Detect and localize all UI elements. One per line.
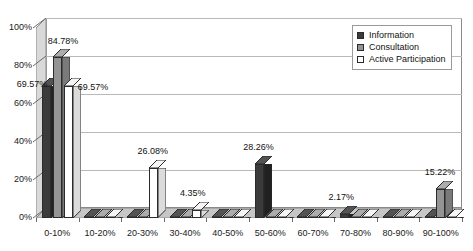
bar-side-face	[73, 86, 81, 218]
x-axis-tick-label: 90-100%	[413, 228, 469, 238]
bar	[436, 189, 445, 218]
bar-front-face	[192, 210, 201, 218]
y-axis-tick-label: 0%	[0, 213, 32, 222]
x-axis-tick	[36, 218, 37, 222]
bar-data-label: 69.57%	[78, 83, 109, 92]
bar-data-label: 4.35%	[180, 189, 206, 198]
bar-front-face	[42, 86, 51, 218]
legend-label: Information	[369, 31, 414, 40]
y-axis-tick	[33, 56, 47, 68]
x-axis-tick	[79, 218, 80, 222]
legend-item[interactable]: Information	[357, 30, 446, 41]
bar-data-label: 84.78%	[48, 37, 79, 46]
bar	[383, 217, 392, 219]
bar	[84, 217, 93, 219]
bar	[42, 86, 51, 218]
bar-data-label: 15.22%	[425, 168, 456, 177]
bar-front-face	[255, 164, 264, 218]
bar	[170, 217, 179, 219]
bar-top-face	[106, 209, 123, 217]
bar-top-face	[149, 160, 166, 168]
bar-top-face	[436, 181, 453, 189]
bar	[106, 217, 115, 219]
legend-swatch-icon	[357, 32, 364, 39]
bar-front-face	[436, 189, 445, 218]
y-axis-tick-label: 100%	[0, 23, 32, 32]
bar-top-face	[405, 209, 422, 217]
y-axis-tick	[33, 18, 47, 30]
bar	[277, 217, 286, 219]
bar	[362, 217, 371, 219]
legend-item[interactable]: Active Participation	[357, 54, 446, 65]
x-axis-tick	[419, 218, 420, 222]
bar	[405, 217, 414, 219]
bar	[64, 86, 73, 218]
legend-label: Active Participation	[369, 55, 446, 64]
gridline	[46, 18, 462, 19]
x-axis-tick	[334, 218, 335, 222]
bar	[394, 217, 403, 219]
bar-top-face	[447, 209, 464, 217]
bar	[181, 217, 190, 219]
bar	[95, 217, 104, 219]
x-axis-tick	[249, 218, 250, 222]
x-axis-tick	[164, 218, 165, 222]
bar-front-face	[53, 57, 62, 218]
bar	[319, 217, 328, 219]
bar-side-face	[201, 210, 209, 218]
legend-swatch-icon	[357, 44, 364, 51]
bar	[223, 217, 232, 219]
bar-side-face	[158, 168, 166, 218]
bar-top-face	[53, 49, 70, 57]
y-axis-tick-label: 20%	[0, 175, 32, 184]
bar	[138, 217, 147, 219]
y-axis-tick-label: 60%	[0, 99, 32, 108]
legend-swatch-icon	[357, 56, 364, 63]
bar	[447, 217, 456, 219]
gridline	[46, 94, 462, 95]
bar-front-face	[64, 86, 73, 218]
bar	[340, 214, 349, 218]
bar	[255, 164, 264, 218]
legend-item[interactable]: Consultation	[357, 42, 446, 53]
bar	[192, 210, 201, 218]
bar-top-face	[362, 209, 379, 217]
bar-top-face	[255, 156, 272, 164]
chart-legend: InformationConsultationActive Participat…	[352, 25, 452, 70]
gridline	[46, 132, 462, 133]
x-axis-tick	[377, 218, 378, 222]
bar	[53, 57, 62, 218]
bar-top-face	[192, 202, 209, 210]
bar	[297, 217, 306, 219]
bar-data-label: 69.57%	[17, 80, 48, 89]
bar-data-label: 28.26%	[243, 143, 274, 152]
bar-data-label: 2.17%	[329, 193, 355, 202]
bar	[308, 217, 317, 219]
x-axis-tick	[121, 218, 122, 222]
bar-chart: 0%20%40%60%80%100% 0-10%10-20%20-30%30-4…	[0, 0, 473, 251]
bar	[212, 217, 221, 219]
y-axis-tick-label: 80%	[0, 61, 32, 70]
bar-front-face	[149, 168, 158, 218]
bar	[425, 217, 434, 219]
bar	[127, 217, 136, 219]
x-axis-tick	[462, 218, 463, 222]
x-axis-tick	[292, 218, 293, 222]
legend-label: Consultation	[369, 43, 419, 52]
bar	[266, 217, 275, 219]
bar-data-label: 26.08%	[138, 147, 169, 156]
x-axis-tick	[206, 218, 207, 222]
bar-top-face	[319, 209, 336, 217]
bar	[149, 168, 158, 218]
bar	[234, 217, 243, 219]
bar-top-face	[234, 209, 251, 217]
y-axis-tick-label: 40%	[0, 137, 32, 146]
bar	[351, 217, 360, 219]
bar-top-face	[277, 209, 294, 217]
